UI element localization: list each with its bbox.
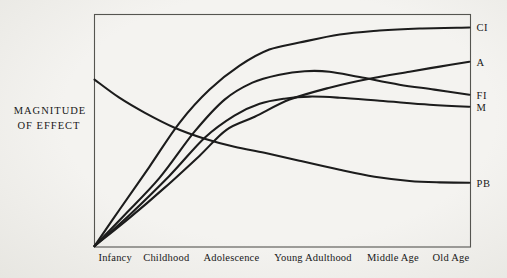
curve-label-ci: CI xyxy=(476,22,488,33)
curve-label-pb: PB xyxy=(476,178,490,189)
curves-group xyxy=(95,28,470,247)
x-axis-label-middle-age: Middle Age xyxy=(367,252,419,263)
y-axis-label-line2: OF EFFECT xyxy=(18,120,81,131)
y-axis-label-line1: MAGNITUDE xyxy=(14,105,87,116)
curve-label-fi: FI xyxy=(476,90,487,101)
book-figure-page: MAGNITUDE OF EFFECT CIAFIMPB InfancyChil… xyxy=(0,0,507,278)
curve-m xyxy=(95,97,470,247)
lifespan-magnitude-chart: MAGNITUDE OF EFFECT CIAFIMPB InfancyChil… xyxy=(0,0,507,278)
curve-a xyxy=(95,62,470,246)
x-axis-label-old-age: Old Age xyxy=(433,252,470,263)
x-axis-label-adolescence: Adolescence xyxy=(203,252,259,263)
curve-ci xyxy=(95,28,470,247)
curve-end-labels-group: CIAFIMPB xyxy=(476,22,490,188)
curve-label-m: M xyxy=(476,102,486,113)
x-axis-label-infancy: Infancy xyxy=(98,252,132,263)
x-axis-labels-group: InfancyChildhoodAdolescenceYoung Adultho… xyxy=(98,252,469,263)
plot-frame xyxy=(95,15,471,248)
x-axis-label-childhood: Childhood xyxy=(143,252,190,263)
curve-pb xyxy=(95,80,470,183)
curve-label-a: A xyxy=(476,57,484,68)
x-axis-label-young-adulthood: Young Adulthood xyxy=(274,252,352,263)
curve-fi xyxy=(95,71,470,246)
